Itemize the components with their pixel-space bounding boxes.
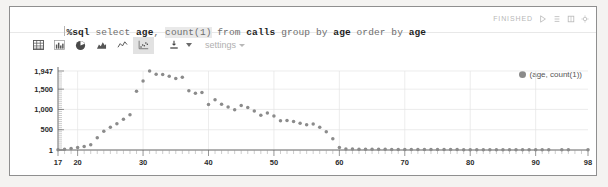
data-point <box>534 148 538 152</box>
x-tick-label: 50 <box>270 158 278 167</box>
data-point <box>207 103 211 107</box>
data-point <box>187 89 191 93</box>
data-point <box>311 122 315 126</box>
data-point <box>331 137 335 141</box>
data-point <box>436 148 440 152</box>
data-point <box>370 147 374 151</box>
data-point <box>527 148 531 152</box>
data-point <box>76 146 80 150</box>
data-point <box>292 120 296 124</box>
data-point <box>56 148 60 152</box>
x-tick-label: 30 <box>139 158 147 167</box>
x-tick-label: 60 <box>335 158 343 167</box>
data-point <box>272 114 276 118</box>
chart-container: (age, count(1)) 15001,0001,5001,94717203… <box>10 57 596 176</box>
data-point <box>167 74 171 78</box>
data-point <box>253 109 256 113</box>
data-point <box>174 77 178 81</box>
status-area: FINISHED <box>493 14 589 23</box>
chevron-down-icon <box>239 44 245 47</box>
data-point <box>239 104 243 108</box>
settings-label: settings <box>205 40 236 50</box>
data-point <box>69 147 73 151</box>
y-tick-label: 1,947 <box>34 67 53 76</box>
data-point <box>410 148 414 152</box>
chart-type-buttons <box>28 37 154 54</box>
x-tick-label: 90 <box>531 158 539 167</box>
bar-chart-icon[interactable] <box>49 37 70 54</box>
data-point <box>226 105 230 109</box>
y-tick-label: 500 <box>40 125 53 134</box>
x-tick-label: 20 <box>73 158 81 167</box>
data-point <box>96 136 100 140</box>
screenshot-root: %sql select age, count(1) from calls gro… <box>0 0 608 187</box>
pie-chart-icon[interactable] <box>70 37 91 54</box>
data-point <box>82 145 86 149</box>
data-point <box>200 91 204 95</box>
scatter-chart-icon[interactable] <box>133 37 154 54</box>
table-view-icon[interactable] <box>28 37 49 54</box>
gear-icon[interactable] <box>580 14 589 23</box>
data-point <box>560 148 564 152</box>
data-point <box>462 148 466 152</box>
data-point <box>501 148 505 152</box>
data-point <box>416 148 420 152</box>
data-point <box>109 126 113 130</box>
data-point <box>305 123 309 127</box>
data-point <box>429 148 433 152</box>
data-point <box>89 143 93 147</box>
data-point <box>135 89 139 93</box>
play-icon[interactable] <box>538 14 547 23</box>
data-point <box>63 147 67 151</box>
data-point <box>141 79 145 83</box>
data-point <box>357 147 361 151</box>
y-tick-label: 1,000 <box>34 105 53 114</box>
line-chart-icon[interactable] <box>112 37 133 54</box>
data-point-group <box>56 69 590 151</box>
data-point <box>377 148 381 152</box>
data-point <box>540 148 544 152</box>
data-point <box>154 72 158 76</box>
list-icon[interactable] <box>552 14 561 23</box>
area-chart-icon[interactable] <box>91 37 112 54</box>
data-point <box>403 148 407 152</box>
status-badge: FINISHED <box>493 15 533 22</box>
data-point <box>567 148 571 152</box>
data-point <box>547 148 551 152</box>
data-point <box>508 148 512 152</box>
x-tick-label: 17 <box>54 158 62 167</box>
data-point <box>488 148 492 152</box>
data-point <box>233 108 237 112</box>
data-point <box>213 98 217 102</box>
paragraph-card: %sql select age, count(1) from calls gro… <box>9 6 597 176</box>
data-point <box>246 106 250 110</box>
data-point <box>220 102 224 106</box>
data-point <box>325 130 329 134</box>
data-point <box>383 148 387 152</box>
data-point <box>259 113 263 117</box>
data-point <box>148 69 152 73</box>
download-icon[interactable] <box>166 37 182 53</box>
y-tick-label: 1 <box>49 146 53 155</box>
data-point <box>351 147 355 151</box>
book-icon[interactable] <box>566 14 575 23</box>
x-tick-label: 40 <box>204 158 212 167</box>
data-point <box>475 148 479 152</box>
data-point <box>390 148 394 152</box>
settings-toggle[interactable]: settings <box>205 40 245 50</box>
download-dropdown-caret[interactable] <box>186 43 192 47</box>
data-point <box>397 148 401 152</box>
data-point <box>423 148 427 152</box>
data-point <box>122 117 126 121</box>
data-point <box>318 126 322 130</box>
x-tick-label: 98 <box>584 158 592 167</box>
x-tick-label: 80 <box>466 158 474 167</box>
data-point <box>482 148 486 152</box>
data-point <box>102 130 106 134</box>
data-point <box>338 146 342 150</box>
download-group <box>166 37 192 53</box>
query-bar[interactable]: %sql select age, count(1) from calls gro… <box>10 7 596 33</box>
scatter-plot[interactable]: 15001,0001,5001,94717203040506070809098 <box>10 57 598 176</box>
data-point <box>364 147 368 151</box>
data-point <box>495 148 499 152</box>
